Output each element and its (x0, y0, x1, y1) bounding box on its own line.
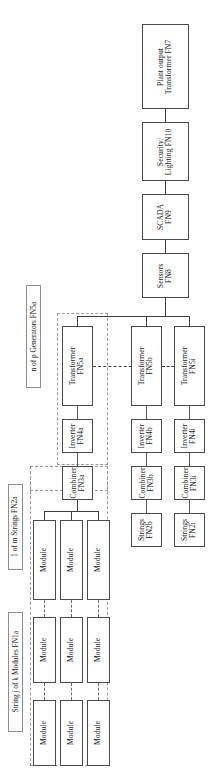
node-strings-b-label: StringsFN2b (139, 519, 155, 541)
connector-bus-to-transformer-i (189, 316, 190, 326)
module-r3c1-label: Module (41, 721, 49, 745)
module-r2c2-label: Module (68, 638, 76, 662)
node-combiner-b[interactable]: CombinerFN3b (131, 466, 162, 500)
module-r2c1[interactable]: Module (33, 617, 56, 683)
connector-bus-to-transformer-a (77, 316, 78, 326)
node-transformer-b-label: TransformerFN5b (139, 347, 155, 386)
diagram-canvas: Plant outputTransformer FN7 Security/Lig… (0, 0, 214, 780)
node-combiner-i-label: CombinerFN3i (182, 467, 198, 498)
module-r2c2[interactable]: Module (60, 617, 83, 683)
connector-scada-sensors (165, 240, 166, 253)
node-combiner-a[interactable]: CombinerFN3a (62, 466, 93, 500)
node-security-lighting-label: Security/Lighting FN10 (158, 128, 174, 175)
ellipsis-link-modules-col2-r1r2 (71, 600, 72, 617)
module-r1c2[interactable]: Module (60, 520, 83, 600)
caption-modules-label: String j of k Modules FN1a (12, 631, 19, 713)
node-inverter-i[interactable]: InverterFN4i (174, 419, 205, 453)
caption-strings-label: 1 of m Strings FN2a (12, 497, 19, 557)
node-transformer-i-label: TransformerFN5i (182, 347, 198, 386)
ellipsis-link-modules-col3-r1r2 (98, 600, 99, 617)
connector-inverter-i-combiner-i (189, 453, 190, 466)
node-scada[interactable]: SCADAFN9 (142, 194, 189, 240)
node-sensors-label: SensorsFN8 (158, 263, 174, 287)
node-inverter-b-label: InverterFN4b (139, 424, 155, 449)
node-combiner-a-label: CombinerFN3a (70, 467, 86, 498)
module-r3c3-label: Module (95, 721, 103, 745)
connector-inverter-b-combiner-b (146, 453, 147, 466)
module-r1c1[interactable]: Module (33, 520, 56, 600)
module-r2c1-label: Module (41, 638, 49, 662)
module-r3c3[interactable]: Module (87, 700, 110, 766)
connector-plantoutput-security (165, 109, 166, 122)
ellipsis-link-modules-col1-r1r2 (44, 600, 45, 617)
node-strings-i[interactable]: StringsFN2i (174, 513, 205, 547)
node-scada-label: SCADAFN9 (158, 204, 174, 230)
caption-modules: String j of k Modules FN1a (8, 612, 23, 732)
connector-security-scada (165, 181, 166, 194)
connector-transformer-bus (77, 316, 190, 317)
node-transformer-i[interactable]: TransformerFN5i (174, 326, 205, 406)
module-r2c3-label: Module (95, 638, 103, 662)
module-r2c3[interactable]: Module (87, 617, 110, 683)
module-r1c3-label: Module (95, 548, 103, 572)
connector-sensors-bus (165, 298, 166, 317)
connector-combiner-b-strings-b (146, 500, 147, 513)
node-inverter-i-label: InverterFN4i (182, 424, 198, 449)
connector-bus-to-transformer-b (146, 316, 147, 326)
node-plant-output-transformer[interactable]: Plant outputTransformer FN7 (142, 24, 189, 109)
connector-module-bus-col3 (98, 511, 99, 520)
node-inverter-b[interactable]: InverterFN4b (131, 419, 162, 453)
connector-module-bus-col1 (44, 511, 45, 520)
ellipsis-link-modules-col2-r2r3 (71, 683, 72, 700)
node-plant-output-transformer-label: Plant outputTransformer FN7 (158, 39, 174, 94)
connector-inverter-a-combiner-a (77, 453, 78, 466)
node-inverter-a-label: InverterFN4a (70, 424, 86, 449)
module-r3c2-label: Module (68, 721, 76, 745)
node-strings-i-label: StringsFN2i (182, 519, 198, 541)
caption-generators-label: n of p Generators FN5a (30, 302, 37, 372)
node-transformer-a-label: TransformerFN5a (70, 347, 86, 386)
node-sensors[interactable]: SensorsFN8 (142, 253, 189, 298)
caption-strings: 1 of m Strings FN2a (8, 484, 23, 570)
module-r1c3[interactable]: Module (87, 520, 110, 600)
module-r1c1-label: Module (41, 548, 49, 572)
connector-module-bus-col2 (71, 511, 72, 520)
module-r1c2-label: Module (68, 548, 76, 572)
caption-generators: n of p Generators FN5a (26, 285, 41, 388)
node-transformer-b[interactable]: TransformerFN5b (131, 326, 162, 406)
ellipsis-link-modules-col3-r2r3 (98, 683, 99, 700)
node-strings-b[interactable]: StringsFN2b (131, 513, 162, 547)
module-r3c2[interactable]: Module (60, 700, 83, 766)
node-combiner-b-label: CombinerFN3b (139, 467, 155, 498)
connector-transformer-a-inverter-a (77, 406, 78, 419)
connector-combiner-i-strings-i (189, 500, 190, 513)
node-combiner-i[interactable]: CombinerFN3i (174, 466, 205, 500)
module-r3c1[interactable]: Module (33, 700, 56, 766)
node-transformer-a[interactable]: TransformerFN5a (62, 326, 93, 406)
node-security-lighting[interactable]: Security/Lighting FN10 (142, 122, 189, 181)
connector-transformer-i-inverter-i (189, 406, 190, 419)
node-inverter-a[interactable]: InverterFN4a (62, 419, 93, 453)
connector-transformer-b-inverter-b (146, 406, 147, 419)
ellipsis-link-modules-col1-r2r3 (44, 683, 45, 700)
